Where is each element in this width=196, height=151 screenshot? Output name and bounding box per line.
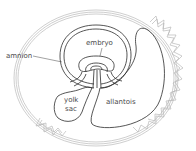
label-sac: sac — [65, 105, 77, 113]
label-amnion: amnion — [6, 52, 32, 60]
label-yolk: yolk — [64, 96, 79, 104]
label-embryo: embryo — [86, 39, 113, 47]
egg-diagram: embryo amnion yolk sac allantois — [0, 0, 196, 151]
amnion-leader-line — [33, 56, 62, 62]
label-allantois: allantois — [106, 98, 136, 106]
embryo-leader-line — [100, 48, 102, 56]
